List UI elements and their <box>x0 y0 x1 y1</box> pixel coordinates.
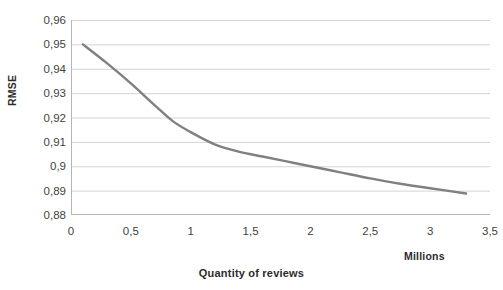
y-tick-label: 0,93 <box>20 87 66 99</box>
y-tick-label: 0,96 <box>20 14 66 26</box>
y-tick-label: 0,89 <box>20 185 66 197</box>
plot-svg <box>71 20 490 215</box>
x-axis-title: Quantity of reviews <box>0 267 503 279</box>
x-tick-label: 0,5 <box>106 224 156 238</box>
x-tick-label: 1 <box>166 224 216 238</box>
y-tick-label: 0,9 <box>20 160 66 172</box>
y-axis-tick-labels: 0,960,950,940,930,920,910,90,890,88 <box>20 0 66 290</box>
x-axis-unit-label: Millions <box>404 250 445 262</box>
x-axis-tick-labels: 00,511,522,533,5 <box>0 224 503 240</box>
x-tick-label: 3,5 <box>465 224 503 238</box>
y-tick-label: 0,95 <box>20 38 66 50</box>
y-tick-label: 0,88 <box>20 209 66 221</box>
y-tick-label: 0,94 <box>20 63 66 75</box>
series-line-rmse <box>83 44 466 193</box>
chart-container: RMSE 0,960,950,940,930,920,910,90,890,88… <box>0 0 503 290</box>
x-tick-label: 0 <box>46 224 96 238</box>
plot-area <box>71 20 490 215</box>
y-tick-label: 0,92 <box>20 112 66 124</box>
cropped-caption-sliver <box>68 0 368 2</box>
x-tick-label: 2 <box>285 224 335 238</box>
x-tick-label: 1,5 <box>226 224 276 238</box>
y-tick-label: 0,91 <box>20 136 66 148</box>
gridlines <box>71 21 490 216</box>
y-axis-title: RMSE <box>6 90 18 106</box>
x-tick-label: 3 <box>405 224 455 238</box>
x-tick-label: 2,5 <box>345 224 395 238</box>
